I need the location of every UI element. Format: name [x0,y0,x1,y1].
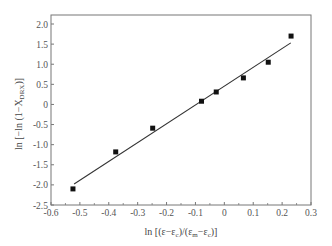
x-tick-label: 0 [222,208,227,218]
data-point-marker [289,34,294,39]
x-tick-label: 0.2 [276,208,288,218]
data-point-marker [241,75,246,80]
y-tick-label: -0.5 [33,120,48,130]
y-tick-label: 1.5 [36,40,48,50]
x-tick-label: -0.5 [72,208,87,218]
x-tick-label: -0.3 [130,208,145,218]
y-axis-label: ln [−ln (1−XDRX)] [13,78,26,150]
y-tick-label: 0 [43,100,48,110]
y-tick-label: 2.0 [36,20,48,30]
y-tick-label: 0.5 [36,80,48,90]
data-points [70,34,293,192]
x-tick-label: 0.3 [305,208,317,218]
y-tick-label: -1.5 [33,160,48,170]
x-tick-label: 0.1 [247,208,259,218]
x-axis-ticks: -0.6-0.5-0.4-0.3-0.2-0.100.10.20.3 [43,202,317,218]
data-point-marker [199,99,204,104]
fit-line [74,43,291,184]
data-point-marker [113,149,118,154]
y-tick-label: 1.0 [36,60,48,70]
chart: -0.6-0.5-0.4-0.3-0.2-0.100.10.20.3 -2.5-… [0,0,332,246]
data-point-marker [150,126,155,131]
x-tick-label: -0.4 [101,208,116,218]
x-tick-label: -0.2 [159,208,174,218]
data-point-marker [214,89,219,94]
data-point-marker [70,186,75,191]
y-tick-label: -2.5 [33,201,48,211]
data-point-marker [266,60,271,65]
y-tick-label: -2.0 [33,180,48,190]
x-tick-label: -0.1 [188,208,203,218]
y-tick-label: -1.0 [33,140,48,150]
plot-frame [51,15,311,205]
x-axis-label: ln [(ε−εc)/(εm−εc)] [145,226,218,239]
